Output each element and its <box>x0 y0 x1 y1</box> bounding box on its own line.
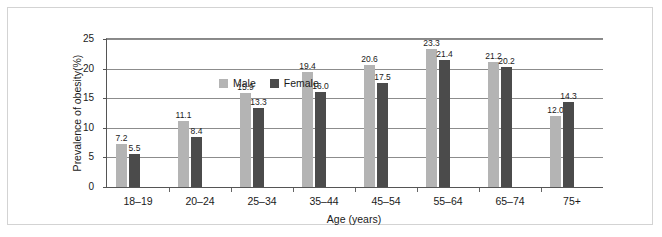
bar-value-label: 12.0 <box>547 105 564 116</box>
chart-legend: Male Female <box>219 77 319 89</box>
x-tick-label: 75+ <box>541 195 603 207</box>
x-tick-label: 65–74 <box>479 195 541 207</box>
bar-value-label: 14.3 <box>560 91 577 102</box>
y-tick-label: 25 <box>54 33 94 44</box>
bar-group: 21.220.2 <box>479 39 541 187</box>
legend-swatch-male <box>219 79 228 88</box>
legend-label-female: Female <box>284 77 319 89</box>
bar-female[interactable]: 17.5 <box>377 83 388 187</box>
bar-group: 19.416.0 <box>293 39 355 187</box>
bar-value-label: 20.6 <box>361 54 378 65</box>
x-tick-mark <box>231 188 232 192</box>
y-tick-label: 20 <box>54 62 94 73</box>
figure-frame: 7.25.511.18.415.913.319.416.020.617.523.… <box>7 7 653 225</box>
bar-value-label: 11.1 <box>176 110 192 121</box>
x-axis-title: Age (years) <box>106 213 602 225</box>
bar-group: 20.617.5 <box>355 39 417 187</box>
bar-value-label: 21.4 <box>436 49 453 60</box>
y-tick-label: 10 <box>54 121 94 132</box>
x-tick-mark <box>355 188 356 192</box>
bar-female[interactable]: 8.4 <box>191 137 202 187</box>
bar-value-label: 7.2 <box>116 133 128 144</box>
x-tick-mark <box>293 188 294 192</box>
bar-male[interactable]: 7.2 <box>116 144 127 187</box>
x-tick-label: 25–34 <box>231 195 293 207</box>
y-tick-mark <box>103 187 107 188</box>
chart-figure: 7.25.511.18.415.913.319.416.020.617.523.… <box>0 0 662 237</box>
x-tick-mark <box>417 188 418 192</box>
bar-value-label: 19.4 <box>299 61 316 72</box>
y-tick-label: 15 <box>54 92 94 103</box>
legend-swatch-female <box>270 79 279 88</box>
bar-female[interactable]: 5.5 <box>129 154 140 187</box>
x-tick-label: 45–54 <box>355 195 417 207</box>
x-tick-label: 35–44 <box>293 195 355 207</box>
bar-group: 12.014.3 <box>541 39 603 187</box>
bar-female[interactable]: 21.4 <box>439 60 450 187</box>
bar-male[interactable]: 21.2 <box>488 62 499 188</box>
legend-item-male: Male <box>219 77 256 89</box>
x-tick-mark <box>479 188 480 192</box>
bar-male[interactable]: 23.3 <box>426 49 437 187</box>
x-tick-mark <box>541 188 542 192</box>
bar-value-label: 23.3 <box>423 38 440 49</box>
legend-label-male: Male <box>233 77 256 89</box>
bar-value-label: 17.5 <box>374 72 391 83</box>
x-tick-label: 55–64 <box>417 195 479 207</box>
bar-female[interactable]: 14.3 <box>563 102 574 187</box>
bar-female[interactable]: 20.2 <box>501 67 512 187</box>
bar-group: 7.25.5 <box>107 39 169 187</box>
bar-female[interactable]: 16.0 <box>315 92 326 187</box>
x-tick-label: 20–24 <box>169 195 231 207</box>
x-tick-mark <box>169 188 170 192</box>
plot-area: 7.25.511.18.415.913.319.416.020.617.523.… <box>106 38 603 187</box>
bar-group: 23.321.4 <box>417 39 479 187</box>
bar-value-label: 20.2 <box>498 56 515 67</box>
bar-group: 15.913.3 <box>231 39 293 187</box>
y-tick-label: 0 <box>54 181 94 192</box>
bar-value-label: 5.5 <box>129 143 141 154</box>
y-tick-label: 5 <box>54 151 94 162</box>
x-tick-label: 18–19 <box>107 195 169 207</box>
bar-group: 11.18.4 <box>169 39 231 187</box>
bar-value-label: 8.4 <box>191 126 203 137</box>
bar-male[interactable]: 11.1 <box>178 121 189 187</box>
bar-female[interactable]: 13.3 <box>253 108 264 187</box>
legend-item-female: Female <box>270 77 319 89</box>
bar-value-label: 13.3 <box>250 97 267 108</box>
bar-male[interactable]: 12.0 <box>550 116 561 187</box>
